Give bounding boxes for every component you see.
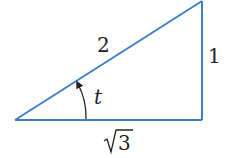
angle-label: t — [94, 85, 103, 109]
angle-arc-arrow-icon — [78, 84, 86, 119]
triangle-diagram: 2 1 t 3 — [0, 0, 225, 158]
hypotenuse-label: 2 — [97, 33, 110, 57]
opposite-side-label: 1 — [208, 44, 221, 68]
adjacent-side-label: 3 — [104, 130, 133, 155]
hypotenuse-edge — [15, 1, 202, 120]
radicand-label: 3 — [118, 131, 131, 155]
